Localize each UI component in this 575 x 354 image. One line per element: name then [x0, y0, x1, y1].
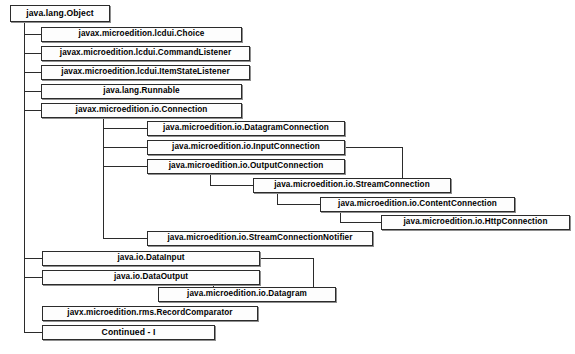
- node-java-lang-object[interactable]: java.lang.Object: [10, 5, 110, 22]
- edge-object-to-command-listener: [24, 53, 42, 54]
- edge-input-connection-right: [345, 147, 403, 148]
- edge-object-to-connection: [24, 110, 42, 111]
- node-io-content-connection[interactable]: java.microedition.io.ContentConnection: [320, 197, 515, 212]
- edge-stream-connection-right: [277, 204, 321, 205]
- edge-connection-to-stream-connection-notifier: [103, 238, 148, 239]
- edge-object-to-runnable: [24, 91, 42, 92]
- node-continued[interactable]: Continued - I: [42, 325, 215, 340]
- node-lcdui-command-listener[interactable]: javax.microedition.lcdui.CommandListener: [41, 46, 250, 61]
- edge-object-trunk: [24, 22, 25, 333]
- node-rms-record-comparator[interactable]: javx.microedition.rms.RecordComparator: [42, 306, 258, 321]
- node-io-http-connection[interactable]: java.microedition.io.HttpConnection: [381, 215, 570, 230]
- edge-connection-to-datagram-connection: [103, 128, 148, 129]
- node-io-stream-connection[interactable]: java.microedition.io.StreamConnection: [253, 178, 451, 193]
- edge-object-to-continued: [24, 332, 43, 333]
- node-java-lang-runnable[interactable]: java.lang.Runnable: [41, 84, 242, 99]
- edge-connection-to-input-connection: [103, 147, 148, 148]
- class-hierarchy-diagram: java.lang.Object javax.microedition.lcdu…: [0, 0, 575, 354]
- node-java-io-data-output[interactable]: java.io.DataOutput: [42, 270, 260, 285]
- node-io-input-connection[interactable]: java.microedition.io.InputConnection: [147, 140, 345, 155]
- node-io-output-connection[interactable]: java.microedition.io.OutputConnection: [147, 159, 345, 174]
- edge-object-to-item-state-listener: [24, 72, 42, 73]
- edge-object-to-data-input: [24, 258, 43, 259]
- edge-output-connection-right: [210, 185, 254, 186]
- node-lcdui-item-state-listener[interactable]: javax.microedition.lcdui.ItemStateListen…: [41, 65, 250, 80]
- node-io-datagram[interactable]: java.microedition.io.Datagram: [158, 287, 336, 302]
- edge-input-connection-down: [402, 147, 403, 179]
- edge-data-input-right: [260, 258, 314, 259]
- node-io-stream-connection-notifier[interactable]: java.microedition.io.StreamConnectionNot…: [147, 231, 373, 246]
- node-io-datagram-connection[interactable]: java.microedition.io.DatagramConnection: [147, 121, 345, 136]
- node-lcdui-choice[interactable]: javax.microedition.lcdui.Choice: [41, 27, 242, 42]
- edge-connection-trunk: [103, 118, 104, 239]
- node-io-connection[interactable]: javax.microedition.io.Connection: [41, 103, 242, 118]
- node-java-io-data-input[interactable]: java.io.DataInput: [42, 251, 260, 266]
- edge-object-to-choice: [24, 34, 42, 35]
- edge-content-connection-right: [340, 222, 382, 223]
- edge-object-to-data-output: [24, 277, 43, 278]
- edge-connection-to-output-connection: [103, 166, 148, 167]
